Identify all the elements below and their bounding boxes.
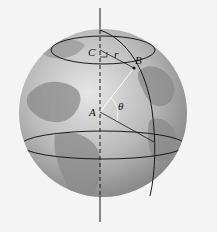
label-C: C <box>88 46 96 58</box>
label-theta: θ <box>118 100 124 112</box>
globe-diagram: C r B A θ <box>0 0 217 232</box>
label-B: B <box>135 54 142 66</box>
label-A: A <box>88 106 96 118</box>
point-B <box>132 66 135 69</box>
label-r: r <box>114 48 119 60</box>
